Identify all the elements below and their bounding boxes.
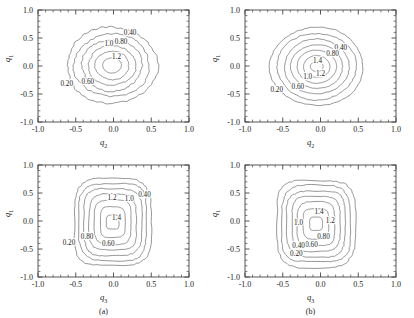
svg-text:0.0: 0.0 [316, 125, 326, 134]
plot-area-top-left: -1.0-0.50.00.51.0-1.0-0.50.00.51.00.400.… [0, 0, 207, 159]
svg-text:-0.5: -0.5 [69, 280, 82, 289]
x-axis-label-top-right: q2 [207, 137, 414, 149]
svg-text:1.0: 1.0 [230, 6, 240, 15]
svg-text:-0.5: -0.5 [227, 245, 240, 254]
svg-text:1.0: 1.0 [391, 125, 401, 134]
svg-text:-1.0: -1.0 [20, 273, 33, 282]
svg-text:0.5: 0.5 [23, 34, 33, 43]
svg-text:1.2: 1.2 [107, 194, 116, 202]
svg-text:0.60: 0.60 [82, 78, 95, 86]
svg-text:0.20: 0.20 [63, 239, 76, 247]
svg-text:-0.5: -0.5 [20, 245, 33, 254]
svg-text:1.4: 1.4 [112, 214, 121, 222]
svg-text:0.5: 0.5 [146, 125, 156, 134]
svg-text:0.60: 0.60 [102, 240, 115, 248]
x-axis-label-bottom-right: q3 [207, 292, 414, 304]
svg-text:-1.0: -1.0 [32, 280, 45, 289]
panel-bottom-right: -1.0-0.50.00.51.0-1.0-0.50.00.51.01.41.4… [207, 155, 414, 314]
svg-text:1.2: 1.2 [326, 217, 335, 225]
svg-text:-0.5: -0.5 [69, 125, 82, 134]
svg-text:0.0: 0.0 [109, 280, 119, 289]
y-axis-label-top-right: q1 [209, 55, 221, 62]
svg-text:-1.0: -1.0 [20, 118, 33, 127]
svg-text:1.0: 1.0 [230, 161, 240, 170]
svg-text:1.0: 1.0 [23, 161, 33, 170]
panel-caption-a: (a) [0, 307, 207, 316]
svg-text:-0.5: -0.5 [276, 280, 289, 289]
svg-text:0.5: 0.5 [353, 280, 363, 289]
svg-text:1.0: 1.0 [184, 125, 194, 134]
svg-text:1.2: 1.2 [316, 70, 325, 78]
svg-text:1.2: 1.2 [112, 53, 121, 61]
svg-text:0.80: 0.80 [115, 38, 128, 46]
svg-text:0.60: 0.60 [292, 83, 305, 91]
plot-area-bottom-right: -1.0-0.50.00.51.0-1.0-0.50.00.51.01.41.4… [207, 155, 414, 314]
panel-bottom-left: -1.0-0.50.00.51.0-1.0-0.50.00.51.00.400.… [0, 155, 207, 314]
panel-top-left: -1.0-0.50.00.51.0-1.0-0.50.00.51.00.400.… [0, 0, 207, 159]
contour-figure: -1.0-0.50.00.51.0-1.0-0.50.00.51.00.400.… [0, 0, 414, 318]
svg-text:0.0: 0.0 [23, 217, 33, 226]
svg-text:-0.5: -0.5 [227, 90, 240, 99]
svg-text:0.5: 0.5 [230, 34, 240, 43]
svg-text:0.80: 0.80 [317, 233, 330, 241]
svg-text:-0.5: -0.5 [20, 90, 33, 99]
x-axis-label-bottom-left: q3 [0, 292, 207, 304]
panel-top-right: -1.0-0.50.00.51.0-1.0-0.50.00.51.00.400.… [207, 0, 414, 159]
svg-text:0.0: 0.0 [230, 217, 240, 226]
svg-text:-1.0: -1.0 [239, 125, 252, 134]
svg-text:-1.0: -1.0 [239, 280, 252, 289]
svg-text:0.20: 0.20 [290, 250, 303, 258]
plot-area-top-right: -1.0-0.50.00.51.0-1.0-0.50.00.51.00.400.… [207, 0, 414, 159]
svg-text:-1.0: -1.0 [227, 273, 240, 282]
svg-text:0.0: 0.0 [316, 280, 326, 289]
svg-text:0.40: 0.40 [124, 29, 137, 37]
svg-text:0.5: 0.5 [230, 189, 240, 198]
y-axis-label-top-left: q1 [2, 55, 14, 62]
svg-text:1.0: 1.0 [23, 6, 33, 15]
svg-text:0.40: 0.40 [138, 191, 151, 199]
svg-text:0.80: 0.80 [81, 233, 94, 241]
svg-text:1.0: 1.0 [184, 280, 194, 289]
svg-text:0.80: 0.80 [326, 50, 339, 58]
svg-text:0.60: 0.60 [305, 241, 318, 249]
svg-text:-0.5: -0.5 [276, 125, 289, 134]
svg-text:1.0: 1.0 [391, 280, 401, 289]
svg-text:0.5: 0.5 [146, 280, 156, 289]
svg-text:1.0: 1.0 [294, 219, 303, 227]
svg-text:0.5: 0.5 [23, 189, 33, 198]
svg-text:0.20: 0.20 [60, 80, 73, 88]
svg-text:0.20: 0.20 [270, 86, 283, 94]
x-axis-label-top-left: q2 [0, 137, 207, 149]
svg-text:-1.0: -1.0 [32, 125, 45, 134]
svg-text:0.0: 0.0 [23, 62, 33, 71]
svg-text:1.0: 1.0 [303, 73, 312, 81]
y-axis-label-bottom-left: q1 [2, 210, 14, 217]
svg-text:0.0: 0.0 [109, 125, 119, 134]
svg-text:1.0: 1.0 [104, 40, 113, 48]
svg-text:0.0: 0.0 [230, 62, 240, 71]
svg-text:1.0: 1.0 [125, 195, 134, 203]
svg-text:-1.0: -1.0 [227, 118, 240, 127]
plot-area-bottom-left: -1.0-0.50.00.51.0-1.0-0.50.00.51.00.400.… [0, 155, 207, 314]
y-axis-label-bottom-right: q1 [209, 210, 221, 217]
svg-text:0.5: 0.5 [353, 125, 363, 134]
svg-text:1.4: 1.4 [313, 57, 322, 65]
svg-text:1.4: 1.4 [314, 208, 323, 216]
panel-caption-b: (b) [207, 307, 414, 316]
